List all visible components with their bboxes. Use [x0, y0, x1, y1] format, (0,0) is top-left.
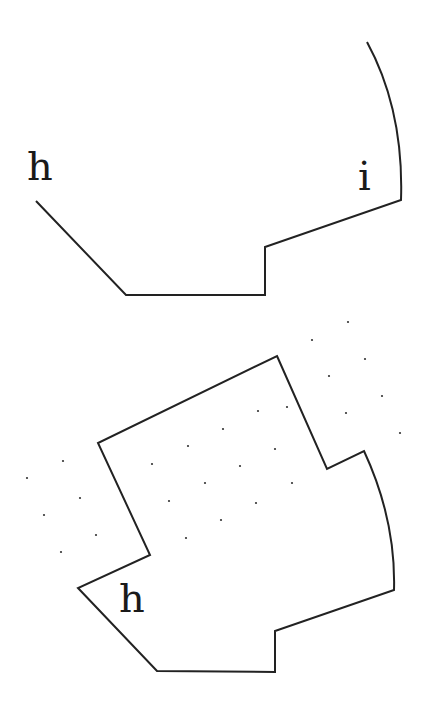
top-label-i: i — [358, 153, 371, 199]
dot — [364, 358, 366, 360]
dot — [257, 410, 259, 412]
dot — [43, 514, 45, 516]
dot — [328, 375, 330, 377]
dot — [381, 395, 383, 397]
dot — [168, 500, 170, 502]
diagram-canvas: h i h — [0, 0, 428, 708]
dot — [220, 519, 222, 521]
dot — [60, 551, 62, 553]
dot — [274, 448, 276, 450]
dot — [345, 412, 347, 414]
dot — [311, 339, 313, 341]
top-figure-outline — [36, 42, 401, 295]
dot — [185, 537, 187, 539]
dot — [62, 460, 64, 462]
dot — [95, 534, 97, 536]
top-label-h: h — [27, 143, 53, 189]
dot — [291, 482, 293, 484]
bottom-label-h: h — [119, 575, 145, 621]
dot — [399, 432, 401, 434]
dot — [26, 477, 28, 479]
bottom-figure-outline — [78, 356, 394, 672]
dot — [151, 463, 153, 465]
dot — [79, 497, 81, 499]
dot-grid — [26, 321, 401, 553]
dot — [347, 321, 349, 323]
dot — [187, 445, 189, 447]
dot — [204, 482, 206, 484]
dot — [255, 502, 257, 504]
dot — [222, 428, 224, 430]
dot — [286, 406, 288, 408]
dot — [239, 465, 241, 467]
